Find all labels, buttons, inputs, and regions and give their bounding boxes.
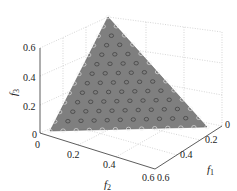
z-tick-0.2: 0.2 bbox=[23, 101, 36, 112]
f1-axis-label: f1 bbox=[207, 163, 214, 177]
z-tick-0.4: 0.4 bbox=[23, 72, 36, 83]
pareto-surface bbox=[50, 17, 207, 131]
f3-axis-label: f3 bbox=[7, 89, 21, 96]
f2-tick-0.2: 0.2 bbox=[67, 149, 80, 160]
f2-axis-label: f2 bbox=[104, 178, 111, 191]
f2-tick-0.4: 0.4 bbox=[103, 159, 116, 170]
f1-tick-0: 0 bbox=[225, 119, 230, 130]
f1-tick-0.2: 0.2 bbox=[205, 134, 218, 145]
pareto-front-3d-plot: 0.6 0.4 0.2 0 0 0.2 0.4 0.6 0 0.2 0.4 0.… bbox=[0, 0, 237, 191]
f1-tick-0.4: 0.4 bbox=[180, 149, 193, 160]
f2-tick-0.6: 0.6 bbox=[142, 172, 155, 183]
z-tick-0.6: 0.6 bbox=[23, 42, 36, 53]
f1-tick-0.6: 0.6 bbox=[157, 172, 170, 183]
f2-tick-0: 0 bbox=[35, 139, 40, 150]
